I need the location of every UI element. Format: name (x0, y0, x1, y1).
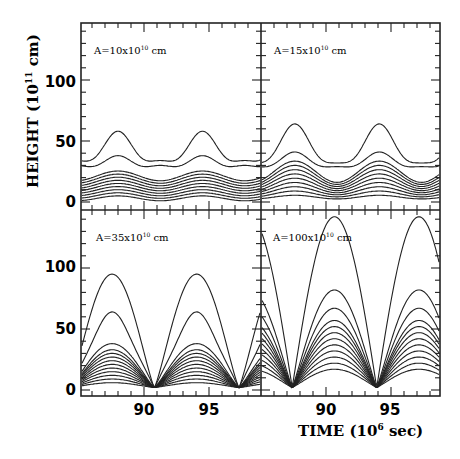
ytick-0-bottom: 0 (66, 381, 76, 399)
xtick-95-left: 95 (199, 401, 220, 419)
ytick-0-top: 0 (66, 193, 76, 211)
panel-label-a15: A=15x1010 cm (273, 44, 347, 56)
panel-label-a35: A=35x1010 cm (95, 231, 169, 243)
panel-label-a10: A=10x1010 cm (93, 44, 167, 56)
ytick-100-top: 100 (45, 73, 76, 91)
xtick-90-right: 90 (316, 401, 337, 419)
y-axis-label: HEIGHT (1011 cm) (24, 34, 42, 188)
x-axis-label: TIME (106 sec) (298, 422, 423, 440)
figure: 0 50 100 0 50 100 90 95 90 95 TIME (106 … (0, 0, 460, 459)
ytick-50-top: 50 (55, 133, 76, 151)
xtick-90-left: 90 (134, 401, 155, 419)
panel-label-a100: A=100x1010 cm (272, 231, 352, 243)
ytick-50-bottom: 50 (55, 320, 76, 338)
xtick-95-right: 95 (380, 401, 401, 419)
panel-frames (81, 23, 440, 396)
ytick-100-bottom: 100 (45, 258, 76, 276)
